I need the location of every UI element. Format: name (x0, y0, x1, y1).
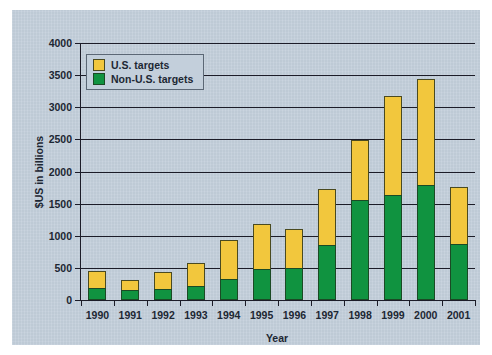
bar-segment-non-us-targets[interactable] (121, 290, 139, 300)
bar-segment-us-targets[interactable] (450, 187, 468, 244)
x-axis-label-2000: 2000 (414, 309, 437, 321)
y-axis-title: $US in billions (32, 43, 46, 300)
x-axis-tick (311, 300, 312, 306)
bar-1991[interactable] (121, 280, 139, 300)
bar-segment-us-targets[interactable] (121, 280, 139, 290)
bar-segment-non-us-targets[interactable] (351, 200, 369, 300)
gridline (81, 43, 475, 44)
y-axis-label: 4000 (49, 37, 72, 49)
y-axis-label: 2500 (49, 133, 72, 145)
x-axis-label-1997: 1997 (316, 309, 339, 321)
x-axis-tick (245, 300, 246, 306)
bar-segment-us-targets[interactable] (318, 189, 336, 245)
bar-segment-us-targets[interactable] (384, 96, 402, 195)
bar-segment-non-us-targets[interactable] (285, 268, 303, 300)
legend-item-non-us-targets: Non-U.S. targets (93, 73, 193, 85)
y-axis-tick (75, 43, 81, 44)
x-axis-label-1991: 1991 (119, 309, 142, 321)
bar-segment-us-targets[interactable] (154, 272, 172, 289)
y-axis-label: 1500 (49, 198, 72, 210)
x-axis-label-1990: 1990 (86, 309, 109, 321)
bar-segment-non-us-targets[interactable] (187, 286, 205, 300)
y-axis-tick (75, 172, 81, 173)
chart-figure: $US in billions 050010001500200025003000… (0, 0, 492, 355)
legend-swatch-us-targets (93, 59, 105, 71)
x-axis-label-1998: 1998 (348, 309, 371, 321)
bar-segment-us-targets[interactable] (351, 140, 369, 200)
y-axis-tick (75, 204, 81, 205)
y-axis-title-text: $US in billions (33, 135, 45, 207)
y-axis-tick (75, 75, 81, 76)
y-axis-tick (75, 107, 81, 108)
bar-segment-non-us-targets[interactable] (450, 244, 468, 300)
x-axis-title: Year (80, 332, 474, 344)
bar-segment-us-targets[interactable] (253, 224, 271, 268)
bar-segment-non-us-targets[interactable] (220, 279, 238, 300)
bar-1997[interactable] (318, 189, 336, 300)
bar-segment-non-us-targets[interactable] (154, 289, 172, 300)
y-axis-tick (75, 268, 81, 269)
x-axis-tick (344, 300, 345, 306)
x-axis-tick (212, 300, 213, 306)
x-axis-label-1994: 1994 (217, 309, 240, 321)
bar-2000[interactable] (417, 79, 435, 300)
bar-segment-us-targets[interactable] (187, 263, 205, 285)
x-axis-label-1996: 1996 (283, 309, 306, 321)
bar-segment-non-us-targets[interactable] (253, 269, 271, 300)
y-axis-label: 1000 (49, 230, 72, 242)
x-axis-tick (147, 300, 148, 306)
x-axis-tick (409, 300, 410, 306)
bar-segment-non-us-targets[interactable] (88, 288, 106, 300)
bar-2001[interactable] (450, 187, 468, 300)
chart-legend: U.S. targets Non-U.S. targets (86, 54, 204, 90)
bar-1998[interactable] (351, 140, 369, 300)
y-axis-label: 3500 (49, 69, 72, 81)
bar-1999[interactable] (384, 96, 402, 300)
legend-label-us-targets: U.S. targets (111, 59, 169, 71)
legend-swatch-non-us-targets (93, 73, 105, 85)
bar-segment-non-us-targets[interactable] (318, 245, 336, 300)
y-axis-label: 500 (54, 262, 72, 274)
x-axis-label-1999: 1999 (381, 309, 404, 321)
y-axis-label: 3000 (49, 101, 72, 113)
bar-segment-non-us-targets[interactable] (384, 195, 402, 300)
x-axis-tick (81, 300, 82, 306)
bar-1994[interactable] (220, 240, 238, 300)
legend-label-non-us-targets: Non-U.S. targets (111, 73, 193, 85)
x-axis-tick (278, 300, 279, 306)
bar-1990[interactable] (88, 271, 106, 300)
x-axis-tick (475, 300, 476, 306)
bar-1996[interactable] (285, 229, 303, 300)
x-axis-tick (442, 300, 443, 306)
x-axis-label-1995: 1995 (250, 309, 273, 321)
bar-segment-non-us-targets[interactable] (417, 185, 435, 300)
x-axis-tick (377, 300, 378, 306)
x-axis-label-1993: 1993 (184, 309, 207, 321)
chart-panel: $US in billions 050010001500200025003000… (12, 10, 480, 345)
bar-segment-us-targets[interactable] (220, 240, 238, 279)
bar-1995[interactable] (253, 224, 271, 300)
bar-1992[interactable] (154, 272, 172, 300)
y-axis-label: 2000 (49, 166, 72, 178)
bar-segment-us-targets[interactable] (88, 271, 106, 288)
bar-1993[interactable] (187, 263, 205, 300)
bar-segment-us-targets[interactable] (285, 229, 303, 268)
bar-segment-us-targets[interactable] (417, 79, 435, 185)
x-axis-label-2001: 2001 (447, 309, 470, 321)
x-axis-tick (180, 300, 181, 306)
legend-item-us-targets: U.S. targets (93, 59, 193, 71)
x-axis-label-1992: 1992 (151, 309, 174, 321)
y-axis-tick (75, 139, 81, 140)
y-axis-tick (75, 236, 81, 237)
y-axis-label: 0 (66, 294, 72, 306)
x-axis-tick (114, 300, 115, 306)
